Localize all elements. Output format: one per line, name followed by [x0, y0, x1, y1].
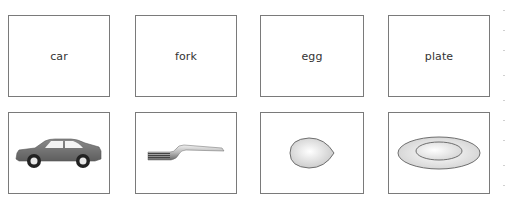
picture-card-egg[interactable] — [260, 112, 364, 194]
word-card-label: car — [50, 50, 68, 63]
fork-icon — [146, 143, 226, 163]
plate-icon — [396, 135, 482, 171]
egg-icon — [287, 136, 337, 170]
picture-card-fork[interactable] — [135, 112, 237, 194]
word-card-plate[interactable]: plate — [388, 15, 490, 97]
page-edge-marks — [500, 0, 508, 201]
picture-card-car[interactable] — [8, 112, 110, 194]
car-icon — [15, 137, 103, 169]
word-card-label: plate — [425, 50, 453, 63]
picture-card-plate[interactable] — [388, 112, 490, 194]
word-card-egg[interactable]: egg — [260, 15, 364, 97]
word-card-car[interactable]: car — [8, 15, 110, 97]
word-card-label: fork — [175, 50, 197, 63]
word-card-fork[interactable]: fork — [135, 15, 237, 97]
word-card-label: egg — [301, 50, 322, 63]
